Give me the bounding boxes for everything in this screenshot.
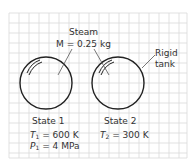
- subscript: 1: [35, 144, 39, 151]
- subscript: 1: [36, 133, 40, 140]
- state-1-pressure: P1 = 4 MPa: [30, 141, 79, 151]
- temperature-value: = 300 K: [112, 130, 148, 140]
- mass-label: M = 0.25 kg: [56, 39, 111, 49]
- pressure-value: = 4 MPa: [42, 141, 79, 151]
- temperature-value: = 600 K: [42, 130, 78, 140]
- rigid-label: Rigid: [155, 48, 178, 58]
- state-2-label: State 2: [104, 116, 136, 126]
- state-1-label: State 1: [32, 116, 64, 126]
- diagram-canvas: Steam M = 0.25 kg Rigid tank State 1 Sta…: [0, 0, 194, 166]
- state-1-temperature: T1 = 600 K: [30, 130, 79, 140]
- tank-label: tank: [155, 59, 175, 69]
- subscript: 2: [106, 133, 110, 140]
- state-2-temperature: T2 = 300 K: [100, 130, 149, 140]
- steam-label: Steam: [69, 27, 98, 37]
